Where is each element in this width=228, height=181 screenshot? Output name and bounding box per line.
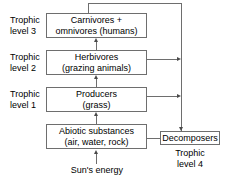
connector-sun-to-abiotic [96, 153, 97, 164]
connector-top-horizontal [88, 3, 182, 4]
label-trophic-level-4-line1: Trophic [163, 148, 217, 159]
node-carnivores-line2: omnivores (humans) [55, 26, 137, 37]
label-suns-energy: Sun's energy [57, 165, 137, 176]
node-producers-line2: (grass) [82, 100, 110, 111]
connector-right-rail [181, 3, 182, 133]
node-decomposers-line1: Decomposers [162, 133, 218, 144]
node-herbivores-line2: (grazing animals) [62, 63, 131, 74]
node-herbivores-line1: Herbivores [75, 52, 119, 63]
node-producers-line1: Producers [76, 89, 117, 100]
arrowhead-abiotic-to-producers [94, 112, 98, 116]
connector-producers-to-rail [147, 96, 178, 97]
connector-herbivores-to-carnivores [96, 41, 97, 50]
node-herbivores: Herbivores (grazing animals) [46, 50, 147, 75]
node-abiotic-substances: Abiotic substances (air, water, rock) [46, 124, 147, 149]
label-trophic-level-3-line1: Trophic [10, 15, 40, 26]
node-carnivores-line1: Carnivores + [71, 15, 122, 26]
arrowhead-producers-to-decomposers [177, 94, 181, 98]
label-trophic-level-4-line2: level 4 [163, 159, 217, 170]
label-trophic-level-2: Trophic level 2 [10, 52, 40, 74]
label-trophic-level-3-line2: level 3 [10, 26, 40, 37]
arrowhead-sun-to-abiotic [94, 150, 98, 154]
arrowhead-herbivores-to-decomposers [177, 57, 181, 61]
label-trophic-level-4: Trophic level 4 [163, 148, 217, 170]
trophic-level-diagram: Carnivores + omnivores (humans) Herbivor… [0, 0, 228, 181]
node-carnivores-omnivores: Carnivores + omnivores (humans) [46, 13, 147, 38]
arrowhead-producers-to-herbivores [94, 75, 98, 79]
label-trophic-level-2-line1: Trophic [10, 52, 40, 63]
connector-producers-to-herbivores [96, 78, 97, 87]
connector-herbivores-to-rail [147, 59, 178, 60]
label-trophic-level-1-line1: Trophic [10, 89, 40, 100]
label-trophic-level-2-line2: level 2 [10, 63, 40, 74]
connector-carnivores-riser [88, 3, 89, 13]
label-trophic-level-3: Trophic level 3 [10, 15, 40, 37]
node-abiotic-line1: Abiotic substances [59, 126, 134, 137]
label-trophic-level-1: Trophic level 1 [10, 89, 40, 111]
label-trophic-level-1-line2: level 1 [10, 100, 40, 111]
node-abiotic-line2: (air, water, rock) [64, 137, 128, 148]
arrowhead-herbivores-to-carnivores [94, 38, 98, 42]
node-producers: Producers (grass) [46, 87, 147, 112]
node-decomposers: Decomposers [160, 131, 220, 145]
connector-abiotic-to-producers [96, 115, 97, 124]
